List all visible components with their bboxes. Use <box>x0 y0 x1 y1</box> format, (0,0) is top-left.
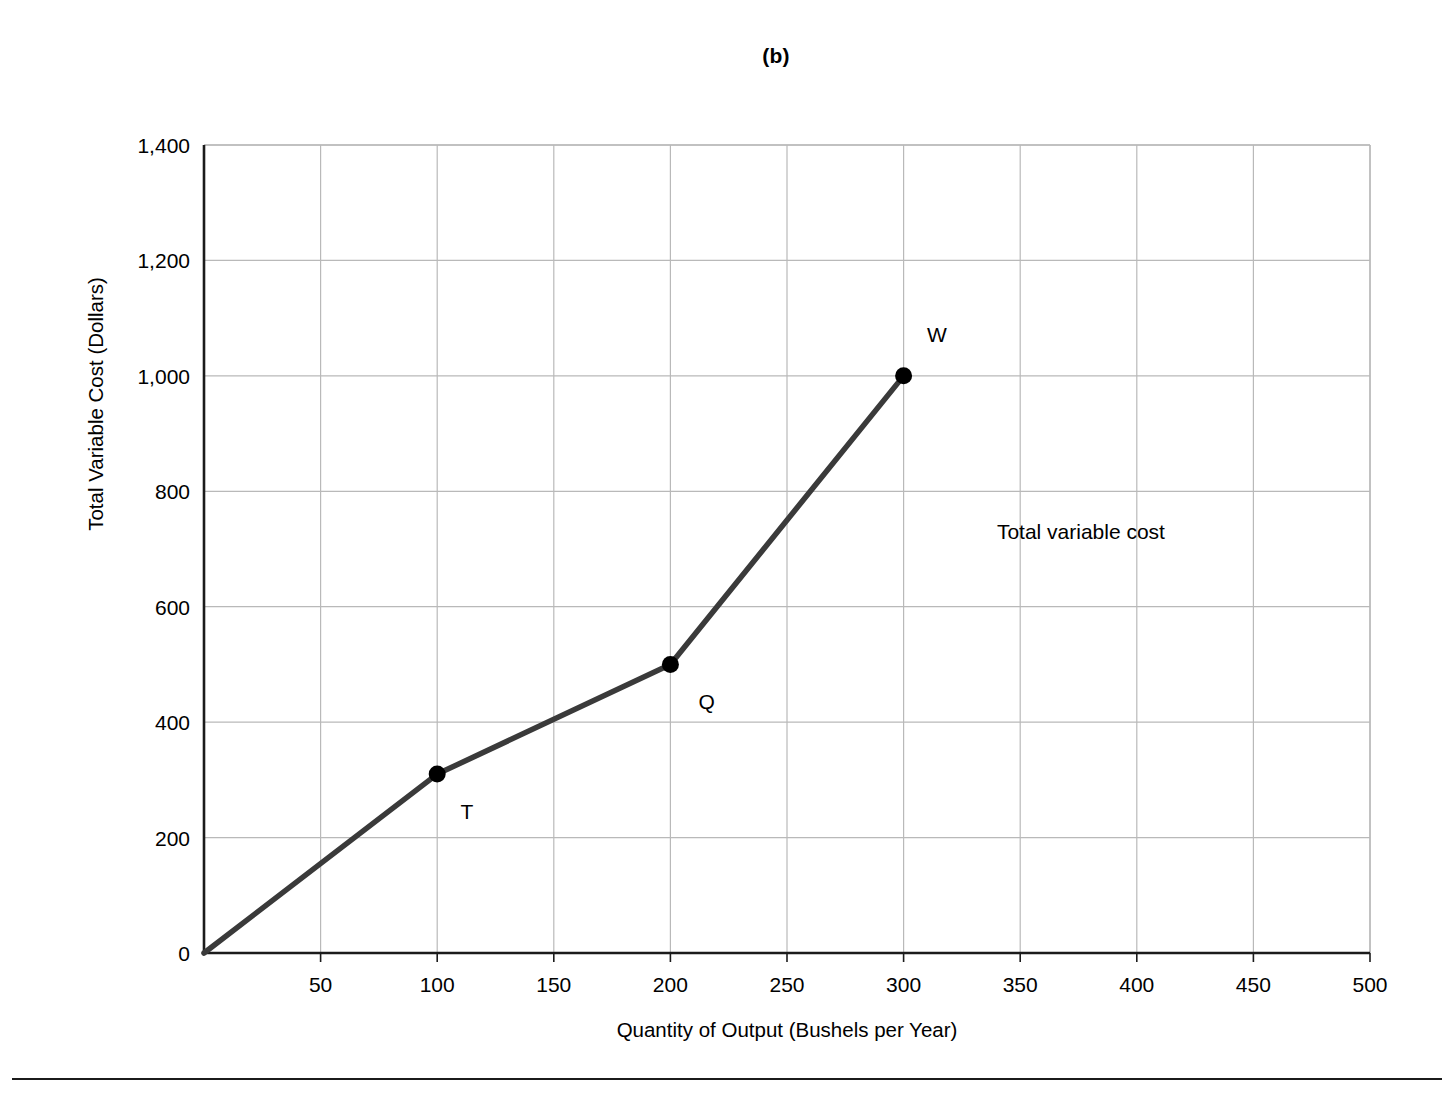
axis-tick-marks <box>321 953 1370 962</box>
chart-canvas <box>204 145 1370 953</box>
plot-area: Total variable costTQW <box>204 145 1370 953</box>
x-tick-label: 400 <box>1077 972 1197 998</box>
y-tick-label: 800 <box>70 481 190 502</box>
x-tick-label: 300 <box>844 972 964 998</box>
x-tick-label: 50 <box>261 972 381 998</box>
y-tick-label: 200 <box>70 828 190 849</box>
figure-title: (b) <box>0 44 1455 68</box>
y-tick-label: 600 <box>70 597 190 618</box>
series-caption-total-variable-cost: Total variable cost <box>997 521 1165 542</box>
point-label-t: T <box>461 801 474 822</box>
y-tick-label: 1,400 <box>70 135 190 156</box>
x-tick-label: 500 <box>1310 972 1430 998</box>
vertical-gridlines <box>321 145 1370 953</box>
y-axis-tick-labels: 02004006008001,0001,2001,400 <box>60 145 190 953</box>
x-tick-label: 150 <box>494 972 614 998</box>
point-label-q: Q <box>698 691 714 712</box>
x-axis-tick-labels: 50100150200250300350400450500 <box>204 972 1370 1006</box>
marker-point-t <box>429 766 446 783</box>
x-tick-label: 450 <box>1193 972 1313 998</box>
x-tick-label: 250 <box>727 972 847 998</box>
x-tick-label: 100 <box>377 972 497 998</box>
y-tick-label: 1,200 <box>70 250 190 271</box>
marker-point-w <box>895 367 912 384</box>
marker-point-q <box>662 656 679 673</box>
y-tick-label: 1,000 <box>70 366 190 387</box>
x-tick-label: 200 <box>610 972 730 998</box>
x-tick-label: 350 <box>960 972 1080 998</box>
y-tick-label: 400 <box>70 712 190 733</box>
point-label-w: W <box>927 324 947 345</box>
page-bottom-rule <box>12 1078 1442 1080</box>
y-tick-label: 0 <box>70 943 190 964</box>
x-axis-title: Quantity of Output (Bushels per Year) <box>204 1018 1370 1042</box>
figure-panel-b: (b) Total Variable Cost (Dollars) 020040… <box>0 0 1455 1104</box>
